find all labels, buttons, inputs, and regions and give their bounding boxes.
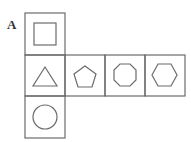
face-middle-4 (145, 55, 185, 96)
square-icon (34, 23, 56, 45)
face-middle-1 (25, 55, 65, 96)
triangle-icon (33, 67, 57, 86)
octagon-icon (114, 64, 136, 86)
circle-icon (33, 105, 57, 129)
face-top (25, 13, 65, 55)
face-middle-3 (105, 55, 145, 96)
hexagon-icon (152, 64, 177, 86)
face-bottom (25, 96, 65, 138)
pentagon-icon (74, 66, 96, 87)
cube-net-diagram (0, 0, 191, 142)
face-middle-2 (65, 55, 105, 96)
